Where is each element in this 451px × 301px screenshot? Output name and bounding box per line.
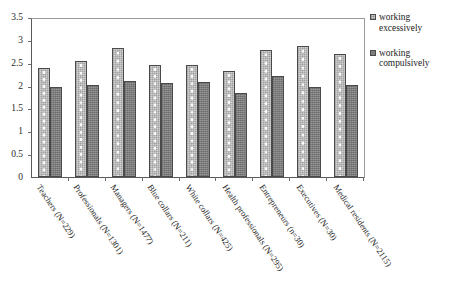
bar-working-excessively — [297, 46, 309, 177]
y-axis-tick-label: 0.5 — [11, 150, 27, 160]
bar-group — [69, 19, 106, 177]
bar-working-excessively — [186, 65, 198, 177]
bar-working-excessively — [38, 68, 50, 177]
bar-group — [253, 19, 290, 177]
bar-working-excessively — [223, 71, 235, 178]
bar-working-compulsively — [309, 87, 321, 178]
bar-group — [290, 19, 327, 177]
bar-working-compulsively — [235, 93, 247, 177]
y-axis-tick-mark — [28, 87, 31, 88]
y-axis-tick-label: 3 — [18, 36, 27, 46]
bar-working-compulsively — [87, 85, 99, 177]
y-axis-tick-mark — [28, 64, 31, 65]
y-axis-tick-mark — [28, 18, 31, 19]
y-axis-tick-label: 3.5 — [11, 13, 27, 23]
y-axis-tick-label: 2.5 — [11, 59, 27, 69]
bar-working-compulsively — [272, 76, 284, 177]
bar-working-excessively — [112, 48, 124, 177]
legend-label: working excessively — [379, 12, 422, 34]
bar-group — [32, 19, 69, 177]
bar-working-compulsively — [346, 85, 358, 177]
bar-working-compulsively — [161, 83, 173, 177]
bar-group — [106, 19, 143, 177]
x-axis-tick-label: Executives (N=30) — [295, 183, 339, 242]
plot-area — [31, 18, 365, 178]
y-axis-tick-mark — [28, 155, 31, 156]
bar-chart: 00.511.522.533.5 Teachers (N=229)Profess… — [0, 0, 451, 301]
bar-working-excessively — [149, 65, 161, 177]
y-axis-tick-mark — [28, 132, 31, 133]
legend: working excessively working compulsively — [370, 12, 451, 83]
y-axis-tick-label: 1.5 — [11, 105, 27, 115]
legend-swatch-working-compulsively — [370, 50, 376, 56]
bar-working-compulsively — [124, 81, 136, 177]
legend-item: working excessively — [370, 12, 451, 34]
bar-working-compulsively — [198, 82, 210, 177]
bar-working-excessively — [260, 50, 272, 177]
x-axis-tick-label: Medical residents (N=2115) — [332, 183, 393, 268]
bar-group — [327, 19, 364, 177]
y-axis-tick-label: 2 — [18, 82, 27, 92]
bar-working-excessively — [334, 54, 346, 177]
bar-group — [180, 19, 217, 177]
x-axis-tick-label: Teachers (N=229) — [35, 183, 77, 239]
legend-item: working compulsively — [370, 48, 451, 70]
bar-working-excessively — [75, 61, 87, 177]
y-axis-tick-label: 0 — [18, 173, 27, 183]
bar-groups — [32, 19, 364, 177]
legend-label: working compulsively — [379, 48, 430, 70]
y-axis-tick-label: 1 — [18, 128, 27, 138]
bar-group — [216, 19, 253, 177]
bar-group — [143, 19, 180, 177]
legend-swatch-working-excessively — [370, 14, 376, 20]
y-axis-tick-mark — [28, 109, 31, 110]
y-axis-tick-mark — [28, 41, 31, 42]
bar-working-compulsively — [50, 87, 62, 177]
